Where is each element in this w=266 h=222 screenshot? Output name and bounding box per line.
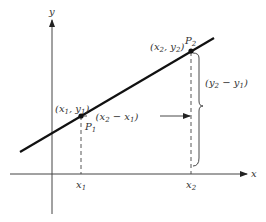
- secant-line: [20, 38, 214, 152]
- y-axis-label: y: [48, 6, 55, 17]
- tick-x2-label: x2: [186, 179, 197, 192]
- rise-label: (y2 − y1): [205, 77, 248, 90]
- x-axis-label: x: [251, 168, 257, 179]
- p1-coord-label: (x1, y1): [55, 103, 90, 116]
- tick-x1-label: x1: [76, 179, 86, 192]
- slope-diagram: x y (x1, y1) P1 (x2, y2) P2 (x2 − x1) (y…: [0, 0, 266, 222]
- p2-label: P2: [184, 35, 197, 48]
- p2-coord-label: (x2, y2): [150, 41, 185, 54]
- rise-brace: [193, 53, 203, 166]
- run-label: (x2 − x1): [96, 111, 139, 124]
- point-p2: [188, 48, 193, 53]
- p1-label: P1: [84, 121, 96, 134]
